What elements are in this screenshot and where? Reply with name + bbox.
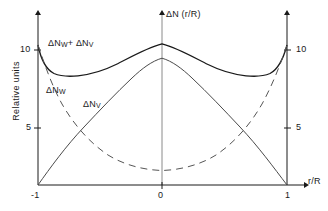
chart-canvas (0, 0, 328, 211)
top-axis-title: ΔN (r/R) (166, 9, 201, 19)
x-tick-label-minus1: -1 (31, 190, 39, 200)
sum-curve-label-sub-w: W (61, 41, 68, 48)
sum-curve-label-prefix: ΔN (48, 38, 61, 48)
sum-curve-label: ΔNW+ ΔNV (48, 38, 94, 48)
sum-curve-label-plus: + ΔN (68, 38, 89, 48)
nv-curve-label-sub: V (96, 102, 101, 109)
figure-panel: Relative units 10 5 10 5 -1 0 1 ΔN (r/R)… (0, 0, 328, 211)
nv-curve-label-prefix: ΔN (83, 99, 96, 109)
y-tick-label-10-left: 10 (20, 44, 30, 54)
sum-curve-label-sub-v: V (89, 41, 94, 48)
nw-curve-label: ΔNW (46, 85, 66, 95)
x-tick-label-zero: 0 (158, 190, 163, 200)
nv-curve-label: ΔNV (83, 99, 101, 109)
y-tick-label-10-right: 10 (296, 44, 306, 54)
y-tick-label-5-right: 5 (296, 122, 301, 132)
x-axis-title: r/R (308, 176, 321, 186)
y-tick-label-5-left: 5 (26, 122, 31, 132)
x-tick-label-one: 1 (285, 190, 290, 200)
nw-curve-label-sub: W (59, 88, 66, 95)
y-axis-title: Relative units (11, 51, 21, 131)
nw-curve-label-prefix: ΔN (46, 85, 59, 95)
